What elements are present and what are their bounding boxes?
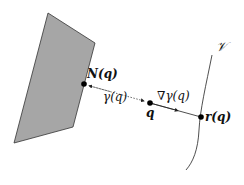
node-r xyxy=(198,114,204,120)
label-manifold: 𝒱 xyxy=(216,40,227,53)
polygon-surface xyxy=(14,13,95,143)
node-q xyxy=(147,100,153,106)
diagram-canvas: 𝒱 N(q) γ(q) q ∇γ(q) r(q) xyxy=(0,0,244,185)
node-N xyxy=(81,81,87,87)
label-distance: γ(q) xyxy=(103,91,127,103)
label-gradient: ∇γ(q) xyxy=(157,90,190,102)
label-projection: r(q) xyxy=(205,111,231,123)
label-nearest-point: N(q) xyxy=(87,68,118,80)
label-point-q: q xyxy=(146,107,154,119)
